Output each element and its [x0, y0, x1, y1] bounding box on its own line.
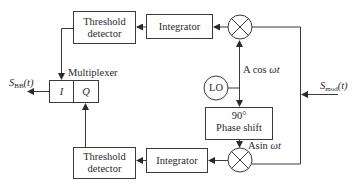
sin-carrier-prefix: Asin	[248, 140, 270, 151]
input-signal-label: Smod(t)	[320, 80, 348, 95]
threshold-detector-bottom: Threshold detector	[73, 151, 136, 175]
input-signal-sub: mod	[325, 85, 337, 93]
output-signal-arg: (t)	[24, 77, 34, 88]
multiplexer-port-q: Q	[74, 86, 98, 98]
mixer-top-icon	[228, 15, 252, 39]
input-signal-arg: (t)	[338, 80, 348, 91]
cos-carrier-var: ωt	[269, 64, 279, 75]
threshold-detector-bottom-line2: detector	[73, 163, 136, 175]
multiplexer-label: Multiplexer	[68, 67, 118, 79]
output-signal-sub: BB	[14, 82, 23, 90]
phase-shift-degrees: 90°	[205, 110, 273, 122]
phase-shift: 90° Phase shift	[205, 110, 273, 134]
lo-label: LO	[204, 82, 228, 94]
cos-carrier-prefix: A cos	[243, 64, 269, 75]
output-signal-label: SBB(t)	[9, 77, 34, 92]
threshold-detector-top: Threshold detector	[73, 16, 136, 40]
cos-carrier-label: A cos ωt	[243, 64, 280, 76]
integrator-bottom: Integrator	[146, 155, 208, 167]
sin-carrier-var: ωt	[270, 140, 280, 151]
threshold-detector-top-line1: Threshold	[73, 16, 136, 28]
threshold-detector-bottom-line1: Threshold	[73, 151, 136, 163]
multiplexer-port-i: I	[50, 86, 73, 98]
sin-carrier-label: Asin ωt	[248, 140, 281, 152]
integrator-top: Integrator	[146, 21, 213, 33]
phase-shift-label: Phase shift	[205, 122, 273, 134]
threshold-detector-top-line2: detector	[73, 28, 136, 40]
